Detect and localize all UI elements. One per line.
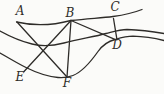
point-label-b: B xyxy=(66,7,75,19)
segment-a-f xyxy=(17,22,67,77)
segment-b-f xyxy=(67,21,71,78)
middle-curve-upper-bank xyxy=(0,30,164,46)
point-label-c: C xyxy=(110,1,119,13)
point-label-e: E xyxy=(16,71,25,83)
top-curve xyxy=(17,10,143,25)
point-label-a: A xyxy=(16,5,25,17)
segment-b-e xyxy=(24,21,71,72)
point-label-d: D xyxy=(112,39,122,51)
geometry-diagram: A B C D E F xyxy=(0,0,164,94)
segment-c-d xyxy=(114,19,118,40)
point-label-f: F xyxy=(63,77,71,89)
